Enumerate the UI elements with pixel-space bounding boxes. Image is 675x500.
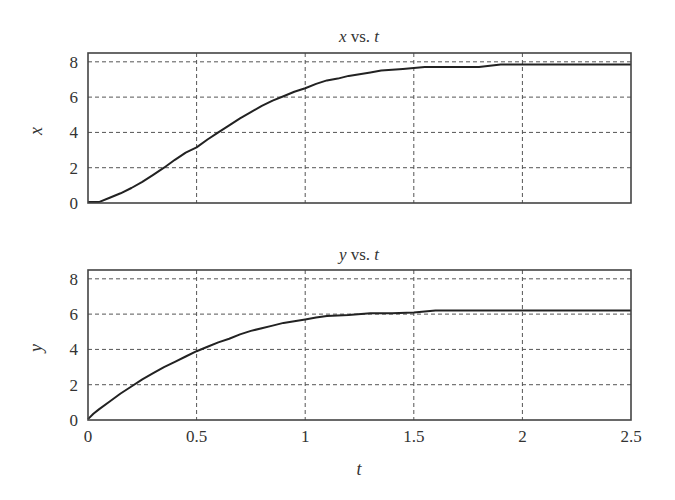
axes-frame <box>88 270 631 420</box>
y-tick-label: 2 <box>70 159 79 178</box>
x-axis-label-t: t <box>356 459 362 479</box>
y-axis-label-y: y <box>26 344 46 354</box>
title-variable: t <box>374 27 380 46</box>
subplot-x-vs-t: x vs. t x 02468 <box>26 27 631 213</box>
series-line-x <box>88 65 631 203</box>
x-tick-labels: 00.511.522.5 <box>84 427 642 446</box>
x-tick-label: 0 <box>84 427 93 446</box>
axes-frame <box>88 53 631 203</box>
subplot-title-y-vs-t: y vs. t <box>337 245 380 264</box>
x-tick-label: 0.5 <box>186 427 207 446</box>
grid-lines <box>88 53 631 203</box>
subplot-y-vs-t: y vs. t y 02468 00.511.522.5 t <box>26 245 642 479</box>
x-tick-label: 2.5 <box>620 427 641 446</box>
y-tick-label: 0 <box>70 194 79 213</box>
title-variable: y <box>337 245 347 264</box>
y-tick-label: 2 <box>70 376 79 395</box>
figure: x vs. t x 02468 y vs. t y 02468 00.511.5… <box>0 0 675 500</box>
subplot-title-x-vs-t: x vs. t <box>338 27 380 46</box>
grid-lines <box>88 270 631 420</box>
title-variable: t <box>374 245 380 264</box>
series-line-y <box>88 311 631 420</box>
y-tick-label: 6 <box>70 88 79 107</box>
x-tick-label: 1.5 <box>403 427 424 446</box>
title-vs: vs. <box>346 27 374 46</box>
title-vs: vs. <box>346 245 374 264</box>
y-tick-label: 8 <box>70 53 79 72</box>
y-tick-label: 4 <box>70 340 79 359</box>
x-tick-label: 2 <box>518 427 527 446</box>
y-tick-labels: 02468 <box>70 53 79 213</box>
x-tick-label: 1 <box>301 427 310 446</box>
y-tick-label: 4 <box>70 123 79 142</box>
y-tick-label: 6 <box>70 305 79 324</box>
y-tick-label: 0 <box>70 411 79 430</box>
y-axis-label-x: x <box>26 127 46 136</box>
y-tick-labels: 02468 <box>70 270 79 430</box>
y-tick-label: 8 <box>70 270 79 289</box>
